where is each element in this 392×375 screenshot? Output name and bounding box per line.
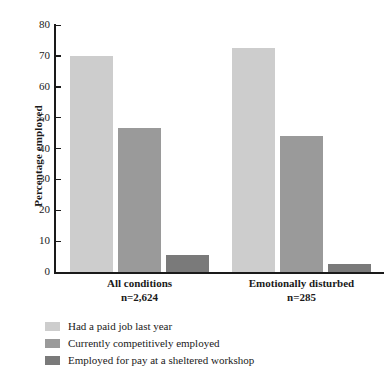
legend-label: Had a paid job last year	[68, 320, 172, 333]
bar	[328, 264, 371, 272]
category-name: All conditions	[107, 277, 172, 289]
legend-swatch	[45, 339, 60, 348]
bar	[118, 128, 161, 272]
bar	[280, 136, 323, 272]
category-sample-size: n=2,624	[50, 291, 230, 305]
x-axis-line	[54, 272, 384, 274]
legend-item: Had a paid job last year	[45, 318, 254, 335]
legend: Had a paid job last yearCurrently compet…	[45, 318, 254, 369]
bars-layer	[0, 24, 392, 272]
bar	[70, 56, 113, 272]
legend-item: Employed for pay at a sheltered workshop	[45, 352, 254, 369]
legend-item: Currently competitively employed	[45, 335, 254, 352]
category-sample-size: n=285	[212, 291, 392, 305]
bar	[232, 48, 275, 272]
x-axis-category-label: Emotionally disturbedn=285	[212, 277, 392, 304]
category-name: Emotionally disturbed	[249, 277, 354, 289]
bar	[166, 255, 209, 272]
legend-label: Currently competitively employed	[68, 337, 220, 350]
y-axis-tick-label-wrap: 0	[22, 272, 50, 273]
x-axis-category-label: All conditionsn=2,624	[50, 277, 230, 304]
legend-swatch	[45, 356, 60, 365]
legend-label: Employed for pay at a sheltered workshop	[68, 354, 254, 367]
legend-swatch	[45, 322, 60, 331]
bar-chart: Percentage employed 01020304050607080 Al…	[0, 0, 392, 375]
